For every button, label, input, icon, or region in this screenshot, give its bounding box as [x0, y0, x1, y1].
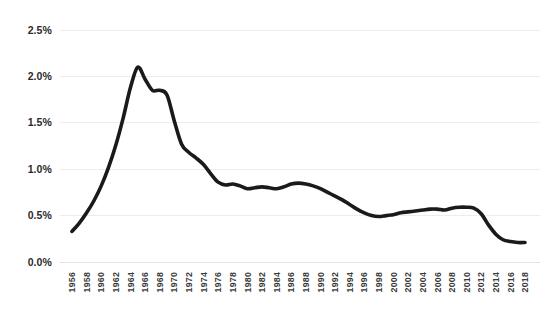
- x-axis-tick-label: 1960: [96, 272, 106, 292]
- x-axis-tick-label: 2018: [520, 272, 530, 292]
- x-axis-tick-label: 2016: [506, 272, 516, 292]
- x-axis-tick-label: 1990: [316, 272, 326, 292]
- x-axis-tick-label: 1962: [111, 272, 121, 292]
- x-axis-tick-label: 2000: [389, 272, 399, 292]
- x-axis-tick-label: 1992: [330, 272, 340, 292]
- x-axis-tick-label: 1980: [243, 272, 253, 292]
- y-axis-tick-label: 0.0%: [28, 256, 53, 268]
- y-axis-labels: 0.0%0.5%1.0%1.5%2.0%2.5%: [28, 24, 53, 268]
- x-axis-tick-label: 1978: [228, 272, 238, 292]
- x-axis-tick-label: 2012: [476, 272, 486, 292]
- x-axis-tick-label: 1972: [184, 272, 194, 292]
- series-line: [72, 67, 525, 243]
- x-axis-tick-label: 1982: [257, 272, 267, 292]
- x-axis-labels: 1956195819601962196419661968197019721974…: [67, 272, 530, 292]
- x-axis-tick-label: 1994: [345, 272, 355, 292]
- x-axis-tick-label: 1964: [126, 272, 136, 292]
- x-axis-tick-label: 1956: [67, 272, 77, 292]
- x-axis-tick-label: 2010: [462, 272, 472, 292]
- x-axis-tick-label: 2014: [491, 272, 501, 292]
- x-axis-tick-label: 1958: [82, 272, 92, 292]
- gridlines: [60, 30, 540, 262]
- chart-container: 0.0%0.5%1.0%1.5%2.0%2.5% 195619581960196…: [0, 0, 548, 310]
- y-axis-tick-label: 2.0%: [28, 70, 53, 82]
- y-axis-tick-label: 1.0%: [28, 163, 53, 175]
- data-series: [72, 67, 525, 243]
- y-axis-tick-label: 2.5%: [28, 24, 53, 36]
- x-axis-tick-label: 1966: [140, 272, 150, 292]
- x-axis-tick-label: 1976: [213, 272, 223, 292]
- x-axis-tick-label: 1968: [155, 272, 165, 292]
- x-axis-tick-label: 2002: [403, 272, 413, 292]
- x-axis-tick-label: 1996: [359, 272, 369, 292]
- y-axis-tick-label: 0.5%: [28, 209, 53, 221]
- x-axis-tick-label: 1984: [272, 272, 282, 292]
- x-axis-tick-label: 2004: [418, 272, 428, 292]
- x-axis-tick-label: 1974: [199, 272, 209, 292]
- line-chart: 0.0%0.5%1.0%1.5%2.0%2.5% 195619581960196…: [0, 0, 548, 310]
- x-axis-tick-label: 1970: [169, 272, 179, 292]
- x-axis-tick-label: 1998: [374, 272, 384, 292]
- y-axis-tick-label: 1.5%: [28, 116, 53, 128]
- x-axis-tick-label: 1986: [286, 272, 296, 292]
- x-axis-tick-label: 1988: [301, 272, 311, 292]
- x-axis-tick-label: 2006: [433, 272, 443, 292]
- x-axis-tick-label: 2008: [447, 272, 457, 292]
